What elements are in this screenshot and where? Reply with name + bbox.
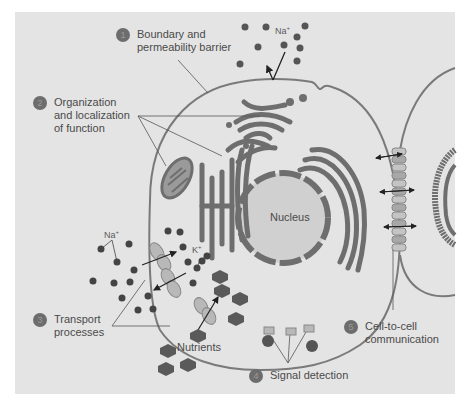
label-organization: Organization and localization of functio… bbox=[54, 96, 130, 135]
nucleus-label: Nucleus bbox=[270, 211, 310, 224]
sodium-label-top: Na+ bbox=[275, 25, 290, 36]
label-badge-4: 4 bbox=[249, 369, 263, 383]
label-badge-1: 1 bbox=[116, 28, 130, 42]
sodium-label-left: Na+ bbox=[104, 229, 119, 240]
label-signal-detection: Signal detection bbox=[270, 369, 348, 382]
label-transport: Transport processes bbox=[54, 313, 104, 339]
label-badge-5: 5 bbox=[344, 320, 358, 334]
sodium-ions-top bbox=[237, 23, 309, 68]
label-badge-2: 2 bbox=[33, 96, 47, 110]
label-cell-communication: Cell-to-cell communication bbox=[365, 320, 439, 346]
nutrients-label: Nutrients bbox=[177, 341, 221, 354]
signal-receptors bbox=[262, 325, 318, 352]
label-badge-3: 3 bbox=[33, 313, 47, 327]
gap-junction bbox=[392, 148, 406, 251]
label-boundary: Boundary and permeability barrier bbox=[137, 28, 231, 54]
mitochondrion bbox=[156, 153, 199, 203]
potassium-label: K+ bbox=[192, 244, 202, 255]
golgi-apparatus bbox=[236, 102, 290, 138]
